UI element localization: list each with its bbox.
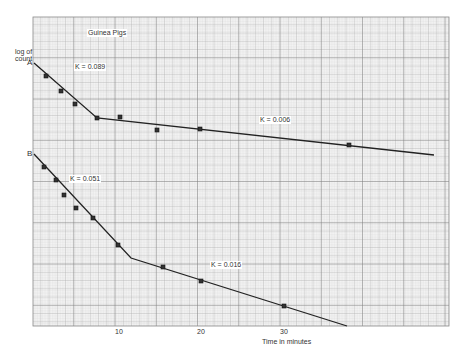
k-a2-annotation: K = 0.006	[259, 116, 291, 124]
x-tick-20: 20	[197, 328, 205, 335]
x-tick-10: 10	[115, 328, 123, 335]
x-tick-30: 30	[280, 328, 288, 335]
k-b1-annotation: K = 0.051	[69, 175, 101, 183]
x-axis-label: Time in minutes	[262, 338, 311, 346]
series-b-label: B	[27, 150, 32, 158]
k-a1-annotation: K = 0.089	[74, 63, 106, 71]
series-a-label: A	[27, 59, 32, 67]
k-b2-annotation: K = 0.016	[210, 261, 242, 269]
chart-title: Guinea Pigs	[87, 29, 127, 37]
